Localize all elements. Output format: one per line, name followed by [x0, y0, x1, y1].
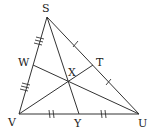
label-y: Y — [73, 117, 82, 130]
cevian-vt — [19, 65, 93, 114]
label-u: U — [138, 117, 147, 130]
label-s: S — [42, 2, 50, 15]
ticks-sw — [34, 37, 44, 45]
label-x: X — [68, 66, 76, 79]
label-v: V — [7, 116, 17, 129]
ticks-st — [73, 41, 78, 47]
triangle-diagram: S W T X V Y U — [0, 0, 152, 133]
cevian-uw — [33, 65, 139, 114]
label-w: W — [18, 56, 30, 69]
ticks-wv — [20, 83, 30, 91]
label-t: T — [96, 56, 104, 69]
